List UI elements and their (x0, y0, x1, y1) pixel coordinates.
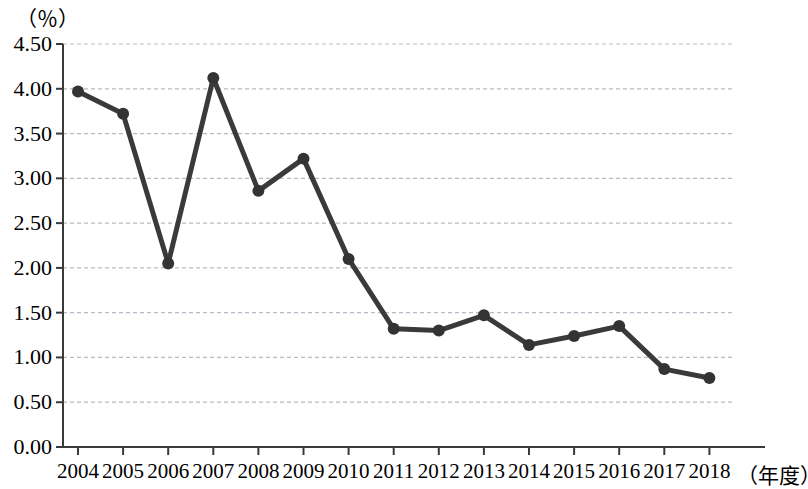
gridlines-group (63, 44, 735, 402)
x-tick-label: 2013 (463, 459, 505, 484)
x-tick-label: 2010 (328, 459, 370, 484)
data-point-marker (252, 185, 264, 197)
x-tick-label: 2016 (598, 459, 640, 484)
y-tick-label: 4.00 (0, 76, 52, 102)
data-point-marker (568, 330, 580, 342)
x-tick-label: 2008 (237, 459, 279, 484)
y-tick-label: 2.00 (0, 255, 52, 281)
data-point-marker (343, 253, 355, 265)
data-point-marker (478, 309, 490, 321)
x-tick-label: 2018 (688, 459, 730, 484)
tick-marks-group (56, 44, 709, 455)
x-tick-label: 2017 (643, 459, 685, 484)
data-point-marker (207, 72, 219, 84)
data-point-markers-group (72, 72, 715, 384)
y-tick-label: 1.50 (0, 300, 52, 326)
y-tick-label: 4.50 (0, 31, 52, 57)
x-tick-label: 2006 (147, 459, 189, 484)
x-tick-label: 2009 (283, 459, 325, 484)
data-point-marker (658, 363, 670, 375)
x-tick-label: 2007 (192, 459, 234, 484)
data-point-marker (703, 372, 715, 384)
x-tick-label: 2014 (508, 459, 550, 484)
x-tick-label: 2005 (102, 459, 144, 484)
data-point-marker (298, 153, 310, 165)
x-axis-unit-label: （年度） (737, 459, 808, 489)
y-tick-label: 0.50 (0, 389, 52, 415)
y-tick-label: 3.00 (0, 165, 52, 191)
data-point-marker (117, 108, 129, 120)
x-tick-label: 2004 (57, 459, 99, 484)
y-tick-label: 3.50 (0, 121, 52, 147)
axes-group (63, 44, 765, 447)
data-point-marker (72, 85, 84, 97)
y-tick-label: 0.00 (0, 434, 52, 460)
x-tick-label: 2015 (553, 459, 595, 484)
y-tick-label: 1.00 (0, 344, 52, 370)
data-point-marker (433, 325, 445, 337)
data-point-marker (613, 320, 625, 332)
x-tick-label: 2011 (373, 459, 414, 484)
data-point-marker (162, 257, 174, 269)
data-point-marker (388, 323, 400, 335)
y-tick-label: 2.50 (0, 210, 52, 236)
x-tick-label: 2012 (418, 459, 460, 484)
data-point-marker (523, 339, 535, 351)
